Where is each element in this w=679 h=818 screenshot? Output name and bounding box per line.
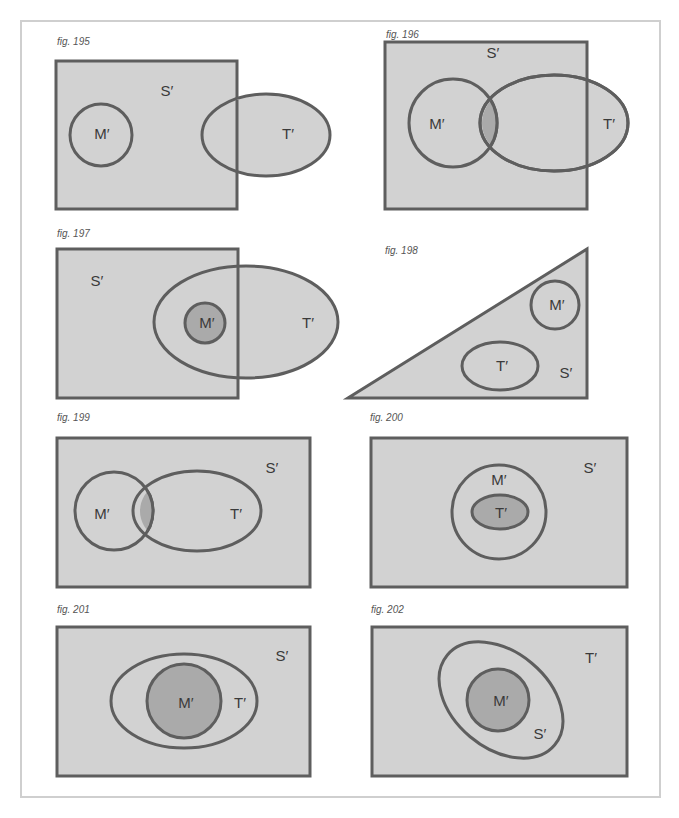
label-s-197: S′	[91, 272, 104, 289]
figure-197: fig. 197 S′ M′ T′	[57, 228, 338, 398]
label-s-195: S′	[161, 82, 174, 99]
label-m-197: M′	[199, 314, 214, 331]
label-s-201: S′	[276, 647, 289, 664]
label-m-198: M′	[549, 296, 564, 313]
label-s-200: S′	[584, 459, 597, 476]
set-t-195	[202, 94, 330, 176]
label-t-202: T′	[585, 649, 597, 666]
figure-201: fig. 201 S′ M′ T′	[57, 604, 310, 776]
label-t-198: T′	[496, 357, 508, 374]
caption-202: fig. 202	[371, 604, 404, 615]
label-m-202: M′	[493, 692, 508, 709]
label-t-199: T′	[230, 505, 242, 522]
label-t-197: T′	[302, 314, 314, 331]
label-t-195: T′	[282, 125, 294, 142]
label-m-201: M′	[178, 694, 193, 711]
label-s-196: S′	[487, 44, 500, 61]
caption-197: fig. 197	[57, 228, 90, 239]
caption-199: fig. 199	[57, 412, 90, 423]
label-m-196: M′	[429, 115, 444, 132]
caption-195: fig. 195	[57, 36, 90, 47]
label-t-200: T′	[495, 504, 507, 521]
label-t-201: T′	[234, 694, 246, 711]
caption-198: fig. 198	[385, 245, 418, 256]
figure-196: fig. 196 S′ M′ T′	[385, 29, 628, 209]
label-s-202: S′	[534, 725, 547, 742]
caption-201: fig. 201	[57, 604, 90, 615]
figure-199: fig. 199 S′ M′ T′	[57, 412, 310, 587]
label-m-199: M′	[94, 505, 109, 522]
figure-198: fig. 198 M′ T′ S′	[348, 245, 587, 398]
figure-200: fig. 200 S′ M′ T′	[370, 412, 627, 587]
label-m-195: M′	[94, 125, 109, 142]
label-m-200: M′	[491, 471, 506, 488]
caption-200: fig. 200	[370, 412, 403, 423]
label-s-199: S′	[266, 459, 279, 476]
venn-diagrams: fig. 195 S′ M′ T′ fig. 196 S′ M′ T′ fig.…	[0, 0, 679, 818]
label-t-196: T′	[603, 115, 615, 132]
label-s-198: S′	[560, 364, 573, 381]
figure-195: fig. 195 S′ M′ T′	[56, 36, 330, 209]
caption-196: fig. 196	[386, 29, 419, 40]
figure-202: fig. 202 T′ M′ S′	[371, 604, 627, 782]
